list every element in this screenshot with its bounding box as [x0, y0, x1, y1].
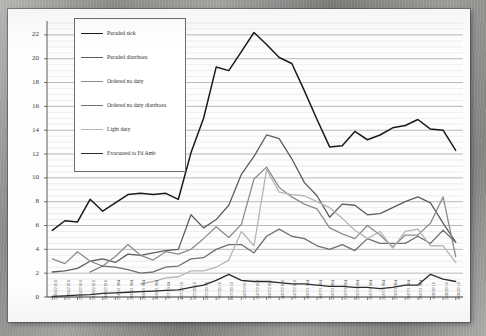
legend-swatch-icon — [81, 105, 103, 106]
series-line-3 — [90, 229, 456, 273]
x-axis-tick-label: 25/07/1 904 — [369, 280, 374, 300]
legend-label: Paraded sick — [107, 30, 135, 36]
x-axis-tick-label: 29/07/1 904 — [419, 280, 424, 300]
legend-label: Ordered no duty diarrhoea — [107, 102, 166, 108]
series-line-4 — [141, 170, 456, 284]
x-axis-tick-label: 21/07/1 904 — [344, 280, 349, 300]
scanned-page: Paraded sickParaded diarrhoeaOrdered no … — [8, 9, 470, 322]
x-axis-tick-label: 22/07/1 904 — [356, 280, 361, 300]
x-axis-tick-label: 2/08/20 16 — [445, 282, 450, 300]
y-axis-tick-label: 2 — [21, 270, 39, 277]
x-axis-tick-label: 3/08/20 16 — [457, 282, 462, 300]
legend-swatch-icon — [81, 33, 103, 34]
x-axis-tick-label: 27/07/1 904 — [394, 280, 399, 300]
y-axis-tick-label: 22 — [21, 31, 39, 38]
x-axis-tick-label: 14/07/2 016 — [281, 280, 286, 300]
chart-legend: Paraded sickParaded diarrhoeaOrdered no … — [74, 18, 186, 172]
x-axis-tick-label: 21/06/2 016 — [67, 280, 72, 300]
legend-item-1[interactable]: Paraded diarrhoea — [81, 52, 148, 62]
x-axis-tick-label: 20/07/1 904 — [331, 280, 336, 300]
y-axis-tick-label: 20 — [21, 55, 39, 62]
legend-item-0[interactable]: Paraded sick — [81, 28, 135, 38]
legend-swatch-icon — [81, 153, 103, 154]
x-axis-tick-label: 7/07/20 16 — [218, 282, 223, 300]
x-axis-tick-label: 27/06/1 904 — [117, 280, 122, 300]
x-axis-tick-label: 13/07/2 016 — [268, 280, 273, 300]
y-axis-tick-label: 14 — [21, 127, 39, 134]
x-axis-tick-label: 5/07/20 16 — [193, 282, 198, 300]
y-axis-tick-label: 10 — [21, 174, 39, 181]
x-axis-tick-label: 19/07/1 904 — [319, 280, 324, 300]
y-axis-tick-label: 12 — [21, 151, 39, 158]
y-axis-tick-label: 16 — [21, 103, 39, 110]
y-axis-tick-label: 6 — [21, 222, 39, 229]
x-axis-tick-label: 1/08/20 16 — [432, 282, 437, 300]
x-axis-tick-label: 6/07/20 16 — [205, 282, 210, 300]
legend-swatch-icon — [81, 57, 103, 58]
legend-swatch-icon — [81, 81, 103, 82]
x-axis-tick-label: 28/07/1 904 — [407, 280, 412, 300]
x-axis-tick-label: 23/06/2 016 — [92, 280, 97, 300]
x-axis-tick-label: 26/07/1 904 — [382, 280, 387, 300]
legend-label: Paraded diarrhoea — [107, 54, 148, 60]
y-axis-tick-label: 0 — [21, 294, 39, 301]
x-axis-tick-label: 28/06/1 904 — [130, 280, 135, 300]
x-axis-tick-label: 30/06/1 904 — [155, 280, 160, 300]
x-axis-tick-label: 8/07/20 16 — [230, 282, 235, 300]
legend-item-5[interactable]: Evacuated to Fd Amb — [81, 148, 156, 158]
x-axis-tick-label: 12/07/2 016 — [256, 280, 261, 300]
legend-label: Evacuated to Fd Amb — [107, 150, 156, 156]
x-axis-tick-label: 29/06/1 904 — [142, 280, 147, 300]
legend-item-3[interactable]: Ordered no duty diarrhoea — [81, 100, 166, 110]
y-axis-tick-label: 18 — [21, 79, 39, 86]
x-axis-tick-label: 22/06/2 016 — [79, 280, 84, 300]
legend-item-4[interactable]: Light duty — [81, 124, 130, 134]
x-axis-tick-label: 4/07/20 16 — [180, 282, 185, 300]
x-axis-tick-label: 24/06/2 016 — [104, 280, 109, 300]
line-chart: Paraded sickParaded diarrhoeaOrdered no … — [8, 9, 470, 322]
legend-swatch-icon — [81, 129, 103, 130]
series-line-2 — [52, 167, 455, 266]
x-axis-tick-label: 15/07/2 016 — [293, 280, 298, 300]
legend-item-2[interactable]: Ordered no duty — [81, 76, 144, 86]
x-axis-tick-label: 1/07/19 04 — [167, 282, 172, 300]
y-axis-tick-label: 4 — [21, 246, 39, 253]
legend-label: Ordered no duty — [107, 78, 144, 84]
x-axis-tick-label: 11/07/2 016 — [243, 280, 248, 300]
y-axis-tick-label: 8 — [21, 198, 39, 205]
x-axis-tick-label: 20/06/2 016 — [54, 280, 59, 300]
x-axis-tick-label: 18/07/1 904 — [306, 280, 311, 300]
legend-label: Light duty — [107, 126, 130, 132]
